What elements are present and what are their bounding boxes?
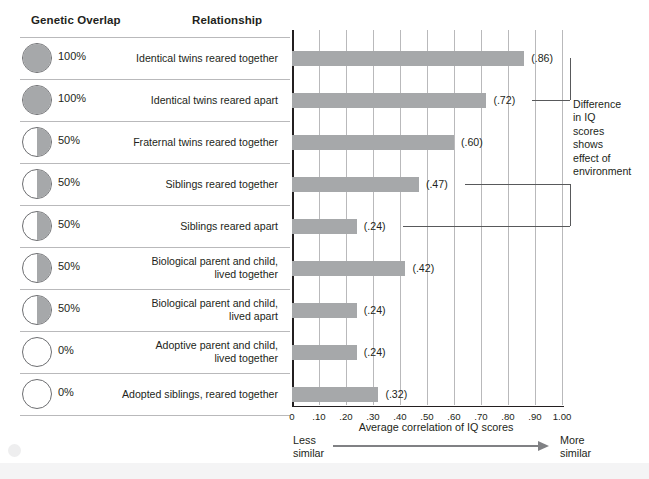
bar-value-label: (.24) — [364, 219, 386, 234]
bar-value-label: (.86) — [531, 51, 553, 66]
bar-value-label: (.42) — [412, 261, 434, 276]
table-row: 50%Siblings reared together — [0, 163, 292, 205]
relationship-label: Biological parent and child,lived apart — [63, 289, 278, 331]
table-row: 50%Biological parent and child,lived apa… — [0, 289, 292, 331]
genetic-overlap-pie-icon — [22, 253, 52, 283]
gridline — [481, 30, 482, 405]
bar — [292, 261, 405, 276]
similarity-arrow-shaft — [333, 445, 540, 447]
bracket-top-arm — [465, 184, 570, 185]
x-axis-right-end-line: More — [560, 434, 591, 447]
relationship-label-line: lived apart — [229, 310, 278, 323]
table-row: 50%Fraternal twins reared together — [0, 121, 292, 163]
bar — [292, 219, 357, 234]
table-row: 50%Siblings reared apart — [0, 205, 292, 247]
annotation-line: effect of — [573, 152, 645, 165]
bar — [292, 135, 454, 150]
cropped-caption-strip — [0, 463, 649, 479]
bar-value-label: (.24) — [364, 345, 386, 360]
relationship-label-line: lived together — [214, 352, 278, 365]
gridline — [562, 30, 563, 405]
x-axis-left-end-label: Lesssimilar — [293, 434, 324, 460]
relationship-label: Siblings reared apart — [63, 205, 278, 247]
bracket-spine — [570, 58, 571, 100]
bar-value-label: (.60) — [461, 135, 483, 150]
genetic-overlap-pie-icon — [22, 127, 52, 157]
relationship-label-line: Adopted siblings, reared together — [122, 388, 278, 401]
relationship-label: Identical twins reared together — [63, 37, 278, 79]
relationship-label: Biological parent and child,lived togeth… — [63, 247, 278, 289]
relationship-label: Siblings reared together — [63, 163, 278, 205]
pie-fill-half — [37, 296, 51, 324]
bracket-bottom-arm — [532, 100, 570, 101]
gridline — [535, 30, 536, 405]
gridline — [508, 30, 509, 405]
relationship-label-line: Fraternal twins reared together — [133, 136, 278, 149]
bar-chart-area: 0.10.20.30.40.50.60.70.80.901.00(.86)(.7… — [292, 30, 592, 420]
similarity-arrow-head — [538, 441, 549, 451]
bar-value-label: (.72) — [493, 93, 515, 108]
bar — [292, 93, 486, 108]
bar — [292, 387, 378, 402]
relationship-label-line: lived together — [214, 268, 278, 281]
gridline — [454, 30, 455, 405]
relationship-label: Adoptive parent and child,lived together — [63, 331, 278, 373]
annotation-line: shows — [573, 138, 645, 151]
relationship-label: Adopted siblings, reared together — [63, 373, 278, 415]
bracket-spine — [570, 184, 571, 226]
genetic-overlap-pie-icon — [22, 169, 52, 199]
table-row: 0%Adoptive parent and child,lived togeth… — [0, 331, 292, 373]
relationship-label-line: Siblings reared apart — [180, 220, 278, 233]
annotation-line: scores — [573, 125, 645, 138]
table-row: 100%Identical twins reared apart — [0, 79, 292, 121]
relationship-label-line: Adoptive parent and child, — [155, 339, 278, 352]
table-row: 0%Adopted siblings, reared together — [0, 373, 292, 415]
bar-value-label: (.24) — [364, 303, 386, 318]
genetic-overlap-pie-icon — [22, 295, 52, 325]
bar — [292, 51, 524, 66]
bar-value-label: (.47) — [426, 177, 448, 192]
pie-fill-half — [37, 254, 51, 282]
x-axis-right-end-label: Moresimilar — [560, 434, 591, 460]
x-axis-tick-label: 0 — [289, 411, 294, 422]
bar-value-label: (.32) — [385, 387, 407, 402]
relationship-label: Fraternal twins reared together — [63, 121, 278, 163]
relationship-label: Identical twins reared apart — [63, 79, 278, 121]
pie-fill-full — [23, 44, 51, 72]
row-divider — [20, 415, 290, 416]
genetic-overlap-pie-icon — [22, 211, 52, 241]
annotation-line: in IQ — [573, 111, 645, 124]
figure-heredity-iq-correlations: Genetic Overlap Relationship 100%Identic… — [0, 0, 649, 479]
relationship-label-line: Identical twins reared together — [136, 52, 278, 65]
genetic-overlap-pie-icon — [22, 43, 52, 73]
x-axis-line — [292, 406, 564, 408]
bar — [292, 177, 419, 192]
relationship-label-line: Biological parent and child, — [151, 255, 278, 268]
genetic-overlap-pie-icon — [22, 337, 52, 367]
relationship-label-line: Siblings reared together — [166, 178, 278, 191]
gridline — [400, 30, 401, 405]
annotation-difference-in-iq: Differencein IQscoresshowseffect ofenvir… — [573, 98, 645, 178]
table-row: 50%Biological parent and child,lived tog… — [0, 247, 292, 289]
bar — [292, 303, 357, 318]
gridline — [427, 30, 428, 405]
relationship-label-line: Identical twins reared apart — [151, 94, 278, 107]
table-row: 100%Identical twins reared together — [0, 37, 292, 79]
genetic-overlap-pie-icon — [22, 379, 52, 409]
relationship-label-line: Biological parent and child, — [151, 297, 278, 310]
bar — [292, 345, 357, 360]
pie-fill-half — [37, 128, 51, 156]
pie-fill-half — [37, 212, 51, 240]
annotation-line: environment — [573, 165, 645, 178]
pie-fill-half — [37, 170, 51, 198]
x-axis-left-end-line: similar — [293, 447, 324, 460]
decorative-dot — [8, 444, 21, 457]
annotation-line: Difference — [573, 98, 645, 111]
pie-fill-full — [23, 86, 51, 114]
relationship-row-list: 100%Identical twins reared together100%I… — [0, 0, 292, 418]
x-axis-title: Average correlation of IQ scores — [316, 421, 556, 433]
x-axis-left-end-line: Less — [293, 434, 324, 447]
bracket-bottom-arm — [403, 226, 570, 227]
genetic-overlap-pie-icon — [22, 85, 52, 115]
x-axis-right-end-line: similar — [560, 447, 591, 460]
